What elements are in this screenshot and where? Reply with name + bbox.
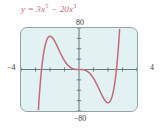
x-max-label: 4 <box>150 64 154 72</box>
graph-figure: y = 3x5 − 20x3 80 −4 4 −80 <box>0 0 160 131</box>
y-min-label: −80 <box>0 115 160 123</box>
y-max-label: 80 <box>0 19 160 27</box>
x-min-label: −4 <box>7 64 16 72</box>
calculator-screen <box>20 27 138 112</box>
plot-canvas <box>21 28 137 111</box>
equation-caption: y = 3x5 − 20x3 <box>21 5 76 14</box>
